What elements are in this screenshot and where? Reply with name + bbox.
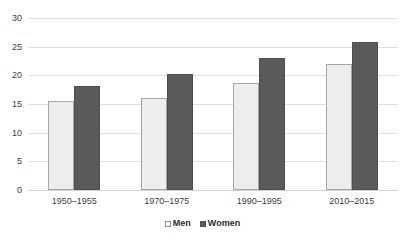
legend-label: Women bbox=[208, 219, 240, 228]
bar-group bbox=[121, 18, 214, 190]
bar-group bbox=[28, 18, 121, 190]
y-tick-label: 15 bbox=[0, 100, 22, 109]
bar-group bbox=[213, 18, 306, 190]
plot-area bbox=[28, 18, 398, 190]
x-tick-label: 1950–1955 bbox=[52, 194, 97, 208]
legend-swatch-men-icon bbox=[165, 221, 171, 227]
legend-swatch-women-icon bbox=[200, 221, 206, 227]
bar-chart: 051015202530 1950–19551970–19751990–1995… bbox=[0, 0, 405, 240]
bar-women bbox=[167, 74, 193, 190]
bar-men bbox=[326, 64, 352, 190]
y-tick-label: 25 bbox=[0, 42, 22, 51]
x-tick-label: 2010–2015 bbox=[329, 194, 374, 208]
bar-women bbox=[259, 58, 285, 190]
bar-women bbox=[352, 42, 378, 190]
x-tick-label: 1990–1995 bbox=[237, 194, 282, 208]
y-tick-label: 30 bbox=[0, 14, 22, 23]
bar-group bbox=[306, 18, 399, 190]
bar-men bbox=[48, 101, 74, 190]
y-tick-label: 5 bbox=[0, 157, 22, 166]
bar-men bbox=[233, 83, 259, 190]
x-tick-label: 1970–1975 bbox=[144, 194, 189, 208]
bar-men bbox=[141, 98, 167, 190]
y-tick-label: 0 bbox=[0, 186, 22, 195]
x-axis: 1950–19551970–19751990–19952010–2015 bbox=[28, 194, 398, 212]
bars bbox=[28, 18, 398, 190]
legend-label: Men bbox=[173, 219, 191, 228]
legend-item-men[interactable]: Men bbox=[165, 219, 191, 228]
chart-legend: MenWomen bbox=[0, 219, 405, 228]
axis-baseline bbox=[28, 190, 398, 191]
y-tick-label: 20 bbox=[0, 71, 22, 80]
y-tick-label: 10 bbox=[0, 128, 22, 137]
legend-item-women[interactable]: Women bbox=[200, 219, 240, 228]
bar-women bbox=[74, 86, 100, 190]
